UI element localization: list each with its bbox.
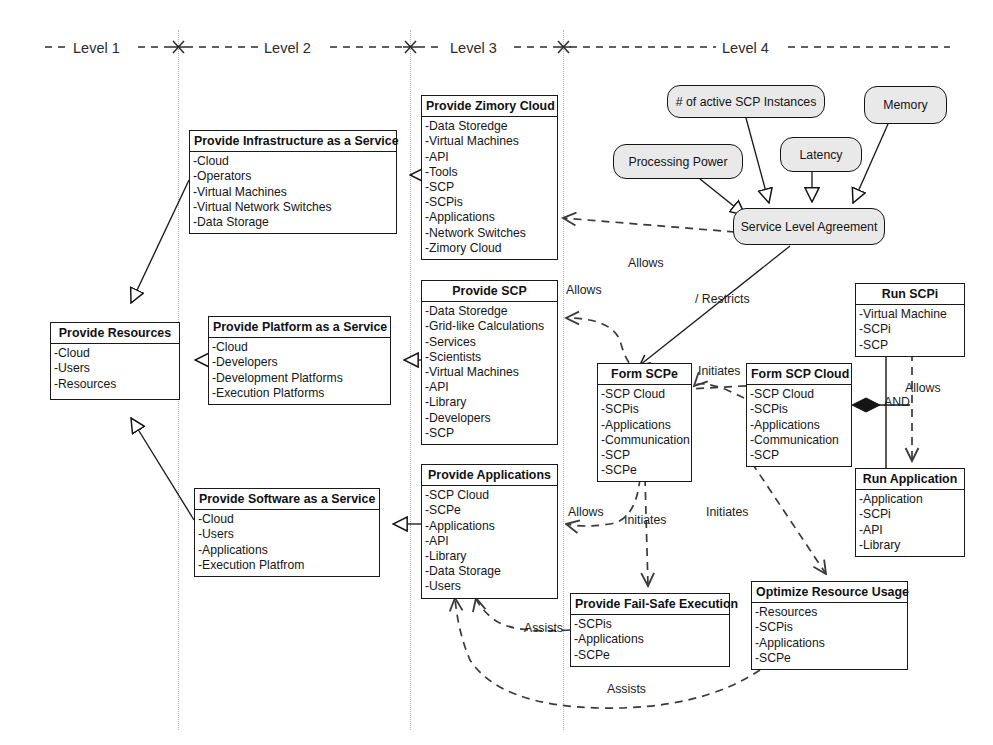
- class-box-provide-software-as-a-service[interactable]: Provide Software as a Service-Cloud-User…: [194, 488, 380, 577]
- class-attribute: -Network Switches: [425, 226, 555, 241]
- class-attribute: -Communication: [750, 433, 849, 448]
- edge-label-initiates-scpe-cloud: Initiates: [698, 364, 740, 378]
- class-attribute: -Library: [425, 395, 555, 410]
- rounded-node-label: Latency: [799, 148, 842, 162]
- rounded-node-service-level-agreement[interactable]: Service Level Agreement: [733, 208, 885, 245]
- rounded-node-label: Processing Power: [628, 155, 727, 169]
- class-attribute: -Zimory Cloud: [425, 241, 555, 256]
- class-box-form-scp-cloud[interactable]: Form SCP Cloud-SCP Cloud-SCPis-Applicati…: [746, 363, 852, 467]
- class-attribute: -Data Storage: [425, 564, 555, 579]
- class-attribute: -Cloud: [198, 512, 377, 527]
- class-attribute-list: -Virtual Machine-SCPi-SCP: [856, 305, 964, 356]
- class-attribute: -Virtual Machines: [425, 134, 555, 149]
- class-attribute: -SCPe: [601, 463, 689, 478]
- class-title: Provide Resources: [51, 323, 179, 344]
- class-attribute: -Development Platforms: [212, 371, 388, 386]
- level-label-4: Level 4: [722, 40, 769, 56]
- class-attribute: -SCPe: [425, 503, 555, 518]
- class-attribute: -SCPi: [859, 507, 962, 522]
- class-attribute: -SCP: [750, 448, 849, 463]
- class-attribute: -Applications: [425, 210, 555, 225]
- edge-label-assists-upper: Assists: [524, 621, 563, 635]
- class-attribute: -SCP Cloud: [750, 387, 849, 402]
- class-attribute: -SCP: [425, 180, 555, 195]
- class-attribute-list: -Cloud-Developers-Development Platforms-…: [209, 338, 390, 404]
- level-divider-2-3: [410, 30, 411, 730]
- class-attribute: -Virtual Machine: [859, 307, 962, 322]
- class-attribute: -Resources: [755, 605, 905, 620]
- class-title: Provide Applications: [422, 465, 557, 486]
- rounded-node-latency[interactable]: Latency: [780, 137, 862, 172]
- class-title: Provide Zimory Cloud: [422, 96, 557, 117]
- class-box-provide-fail-safe-execution[interactable]: Provide Fail-Safe Execution-SCPis-Applic…: [570, 593, 730, 667]
- class-attribute-list: -Cloud-Users-Resources: [51, 344, 179, 395]
- class-box-provide-infrastructure-as-a-service[interactable]: Provide Infrastructure as a Service-Clou…: [189, 130, 397, 234]
- edge-label-allows-scp: Allows: [566, 283, 602, 297]
- rounded-node-label: # of active SCP Instances: [676, 95, 817, 109]
- class-title: Run Application: [856, 469, 964, 490]
- class-attribute: -Developers: [425, 411, 555, 426]
- class-attribute: -SCPi: [859, 322, 962, 337]
- class-attribute: -Application: [859, 492, 962, 507]
- edge-label-allows-applications: Allows: [568, 505, 604, 519]
- class-attribute: -API: [425, 534, 555, 549]
- level-label-2: Level 2: [264, 40, 311, 56]
- class-attribute: -SCPis: [750, 402, 849, 417]
- class-attribute: -Grid-like Calculations: [425, 319, 555, 334]
- level-label-3: Level 3: [450, 40, 497, 56]
- edge-label-assists-lower: Assists: [607, 682, 646, 696]
- class-box-provide-resources[interactable]: Provide Resources-Cloud-Users-Resources: [50, 322, 180, 400]
- class-box-provide-applications[interactable]: Provide Applications-SCP Cloud-SCPe-Appl…: [421, 464, 558, 599]
- class-attribute-list: -Application-SCPi-API-Library: [856, 490, 964, 556]
- class-attribute: -Communication: [601, 433, 689, 448]
- class-attribute: -Execution Platforms: [212, 386, 388, 401]
- diagram-canvas: Level 1 Level 2 Level 3 Level 4: [0, 0, 993, 745]
- class-attribute: -Tools: [425, 165, 555, 180]
- class-attribute-list: -Resources-SCPis-Applications-SCPe: [752, 603, 907, 669]
- class-attribute: -SCPis: [601, 402, 689, 417]
- class-attribute: -Library: [859, 538, 962, 553]
- rounded-node-memory[interactable]: Memory: [864, 86, 947, 124]
- class-attribute: -Scientists: [425, 350, 555, 365]
- rounded-node-label: Service Level Agreement: [741, 220, 878, 234]
- class-attribute: -Developers: [212, 355, 388, 370]
- class-title: Provide Platform as a Service: [209, 317, 390, 338]
- class-attribute: -Data Storedge: [425, 119, 555, 134]
- class-box-run-scpi[interactable]: Run SCPi-Virtual Machine-SCPi-SCP: [855, 283, 965, 357]
- class-box-provide-platform-as-a-service[interactable]: Provide Platform as a Service-Cloud-Deve…: [208, 316, 391, 405]
- class-attribute-list: -Data Storedge-Grid-like Calculations-Se…: [422, 302, 557, 444]
- class-attribute: -API: [859, 523, 962, 538]
- rounded-node-processing-power[interactable]: Processing Power: [613, 144, 743, 179]
- class-box-provide-zimory-cloud[interactable]: Provide Zimory Cloud-Data Storedge-Virtu…: [421, 95, 558, 260]
- class-attribute: -SCPis: [574, 617, 727, 632]
- class-title: Provide SCP: [422, 281, 557, 302]
- class-attribute: -Execution Platfrom: [198, 558, 377, 573]
- class-attribute-list: -SCP Cloud-SCPe-Applications-API-Library…: [422, 486, 557, 597]
- edge-label-restricts: / Restricts: [695, 292, 750, 306]
- class-attribute: -SCP Cloud: [601, 387, 689, 402]
- class-attribute: -SCP: [425, 426, 555, 441]
- class-title: Form SCP Cloud: [747, 364, 851, 385]
- class-title: Optimize Resource Usage: [752, 582, 907, 603]
- rounded-node-active-scp-instances[interactable]: # of active SCP Instances: [667, 85, 825, 118]
- class-box-run-application[interactable]: Run Application-Application-SCPi-API-Lib…: [855, 468, 965, 557]
- class-attribute: -Resources: [54, 377, 177, 392]
- class-attribute-list: -Data Storedge-Virtual Machines-API-Tool…: [422, 117, 557, 259]
- class-title: Provide Software as a Service: [195, 489, 379, 510]
- class-box-provide-scp[interactable]: Provide SCP-Data Storedge-Grid-like Calc…: [421, 280, 558, 445]
- class-attribute: -Data Storedge: [425, 304, 555, 319]
- class-box-form-scpe[interactable]: Form SCPe-SCP Cloud-SCPis-Applications-C…: [597, 363, 692, 482]
- class-attribute: -SCPis: [425, 195, 555, 210]
- class-attribute: -SCPe: [574, 648, 727, 663]
- class-attribute-list: -SCP Cloud-SCPis-Applications-Communicat…: [747, 385, 851, 466]
- class-attribute: -Data Storage: [193, 215, 394, 230]
- class-attribute: -API: [425, 380, 555, 395]
- class-box-optimize-resource-usage[interactable]: Optimize Resource Usage-Resources-SCPis-…: [751, 581, 908, 670]
- edge-label-initiates-optimize: Initiates: [706, 505, 748, 519]
- class-attribute-list: -Cloud-Operators-Virtual Machines-Virtua…: [190, 152, 396, 233]
- class-attribute: -SCPis: [755, 620, 905, 635]
- class-attribute: -SCP Cloud: [425, 488, 555, 503]
- class-attribute: -Virtual Network Switches: [193, 200, 394, 215]
- class-title: Provide Infrastructure as a Service: [190, 131, 396, 152]
- class-attribute: -Users: [54, 361, 177, 376]
